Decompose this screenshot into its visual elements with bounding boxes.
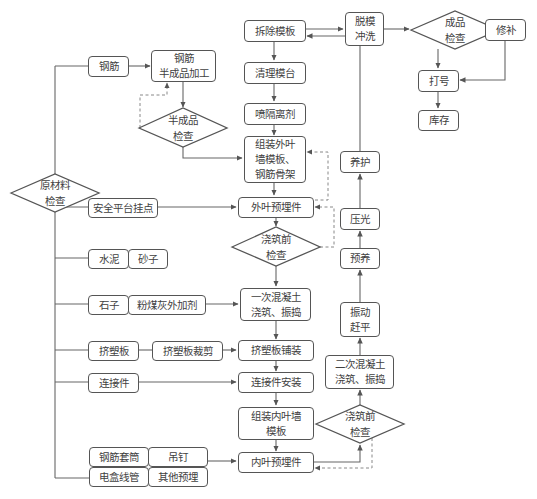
spray-release-agent-node: 喷隔离剂 xyxy=(244,103,306,125)
lifting-nail-node: 吊钉 xyxy=(148,447,208,467)
flowchart-canvas: 原材料 检查 半成品 检查 浇筑前 检查 浇筑前 检查 成品 检查 钢筋 钢筋 … xyxy=(0,0,537,499)
safety-platform-anchor-node: 安全平台挂点 xyxy=(88,198,158,218)
storage-node: 库存 xyxy=(418,110,459,131)
first-concrete-pour-node: 一次混凝土 浇筑、振捣 xyxy=(240,288,311,321)
outer-embedded-parts-node: 外叶预埋件 xyxy=(238,197,314,218)
flyash-admixture-node: 粉煤灰外加剂 xyxy=(128,295,206,315)
pre-pour-check-1-decision: 浇筑前 检查 xyxy=(246,230,306,264)
cement-node: 水泥 xyxy=(88,249,129,269)
xps-laying-node: 挤塑板铺装 xyxy=(238,340,314,361)
sand-node: 砂子 xyxy=(128,249,168,269)
rebar-semi-processing-node: 钢筋 半成品加工 xyxy=(151,50,216,82)
second-concrete-pour-node: 二次混凝土 浇筑、振捣 xyxy=(325,355,394,389)
semi-product-check-decision: 半成品 检查 xyxy=(153,111,213,145)
clean-mold-table-node: 清理模台 xyxy=(244,62,306,84)
other-embedded-node: 其他预埋 xyxy=(148,467,208,487)
marking-node: 打号 xyxy=(418,70,459,92)
gravel-node: 石子 xyxy=(88,295,129,315)
rebar-sleeve-node: 钢筋套筒 xyxy=(89,447,149,467)
inner-embedded-parts-node: 内叶预埋件 xyxy=(238,452,314,473)
repair-node: 修补 xyxy=(485,19,526,41)
rebar-node: 钢筋 xyxy=(88,56,129,77)
assemble-outer-wall-node: 组装外叶 墙模板、 钢筋骨架 xyxy=(244,136,306,183)
electrical-conduit-node: 电盒线管 xyxy=(89,467,149,487)
vibrate-level-node: 振动 赶平 xyxy=(340,302,380,337)
pre-curing-node: 预养 xyxy=(340,248,380,269)
assemble-inner-wall-node: 组装内叶墙 模板 xyxy=(238,407,314,440)
curing-node: 养护 xyxy=(340,151,380,173)
connector-install-node: 连接件安装 xyxy=(238,372,314,393)
remove-formwork-node: 拆除模板 xyxy=(244,20,306,42)
connector-node: 连接件 xyxy=(88,373,139,393)
xps-board-node: 挤塑板 xyxy=(88,341,139,361)
raw-material-check-decision: 原材料 检查 xyxy=(25,176,85,210)
trowel-node: 压光 xyxy=(340,208,380,230)
pre-pour-check-2-decision: 浇筑前 检查 xyxy=(330,407,390,441)
xps-cutting-node: 挤塑板裁剪 xyxy=(152,341,223,361)
demold-wash-node: 脱模 冲洗 xyxy=(345,12,384,46)
product-check-decision: 成品 检查 xyxy=(425,13,485,47)
